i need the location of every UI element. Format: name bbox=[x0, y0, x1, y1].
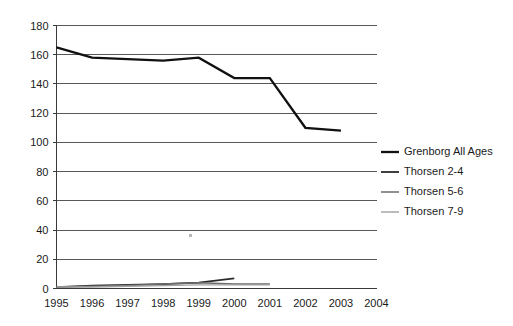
data-series bbox=[57, 47, 341, 287]
x-tick-label-1997: 1997 bbox=[115, 297, 139, 309]
y-tick-label-120: 120 bbox=[30, 107, 48, 119]
series-line-0 bbox=[57, 47, 341, 130]
line-chart: 020406080100120140160180 199519961997199… bbox=[0, 0, 513, 326]
y-tick-label-80: 80 bbox=[36, 166, 48, 178]
x-tick-label-1996: 1996 bbox=[80, 297, 104, 309]
scan-artifact bbox=[189, 234, 192, 237]
y-tick-label-160: 160 bbox=[30, 49, 48, 61]
x-axis-tick-labels: 1995199619971998199920002001200220032004 bbox=[44, 297, 388, 309]
y-axis-tick-labels: 020406080100120140160180 bbox=[30, 20, 48, 295]
x-tick-label-2004: 2004 bbox=[364, 297, 388, 309]
x-tick-label-2002: 2002 bbox=[293, 297, 317, 309]
x-tick-label-1995: 1995 bbox=[44, 297, 68, 309]
chart-axes bbox=[53, 26, 377, 289]
x-tick-label-1998: 1998 bbox=[151, 297, 175, 309]
y-tick-label-180: 180 bbox=[30, 20, 48, 32]
legend-item-1: Thorsen 2-4 bbox=[381, 165, 463, 177]
gridlines bbox=[57, 26, 377, 260]
x-tick-label-2000: 2000 bbox=[222, 297, 246, 309]
chart-legend: Grenborg All AgesThorsen 2-4Thorsen 5-6T… bbox=[381, 145, 493, 217]
x-tick-label-1999: 1999 bbox=[186, 297, 210, 309]
x-tick-label-2003: 2003 bbox=[329, 297, 353, 309]
y-tick-label-40: 40 bbox=[36, 224, 48, 236]
y-tick-label-100: 100 bbox=[30, 136, 48, 148]
legend-label-1: Thorsen 2-4 bbox=[404, 165, 463, 177]
x-tick-label-2001: 2001 bbox=[258, 297, 282, 309]
y-tick-label-140: 140 bbox=[30, 78, 48, 90]
chart-canvas: 020406080100120140160180 199519961997199… bbox=[0, 0, 513, 326]
legend-item-0: Grenborg All Ages bbox=[381, 145, 493, 157]
legend-item-3: Thorsen 7-9 bbox=[381, 205, 463, 217]
legend-label-2: Thorsen 5-6 bbox=[404, 185, 463, 197]
legend-item-2: Thorsen 5-6 bbox=[381, 185, 463, 197]
y-tick-label-0: 0 bbox=[42, 283, 48, 295]
legend-label-0: Grenborg All Ages bbox=[404, 145, 493, 157]
y-tick-label-60: 60 bbox=[36, 195, 48, 207]
legend-label-3: Thorsen 7-9 bbox=[404, 205, 463, 217]
y-tick-label-20: 20 bbox=[36, 253, 48, 265]
